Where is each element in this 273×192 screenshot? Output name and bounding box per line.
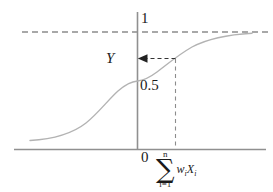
output-arrowhead-icon (138, 54, 148, 62)
sum-lower-limit: i=1 (159, 180, 171, 189)
upper-asymptote-label: 1 (141, 11, 149, 26)
sigma-with-limits: n ∑ i=1 (156, 150, 175, 189)
weight-symbol: w (177, 162, 185, 176)
sigma-icon: ∑ (156, 158, 175, 181)
summation-expression: n ∑ i=1 wiXi (156, 150, 196, 189)
input-subscript: i (194, 169, 196, 178)
plot-canvas (0, 0, 273, 192)
summation-body: wiXi (177, 163, 197, 178)
output-label: Y (106, 51, 114, 66)
midpoint-label: 0.5 (140, 78, 159, 93)
sigmoid-function-figure: 1 0.5 0 Y n ∑ i=1 wiXi (0, 0, 273, 192)
origin-label: 0 (141, 150, 149, 165)
